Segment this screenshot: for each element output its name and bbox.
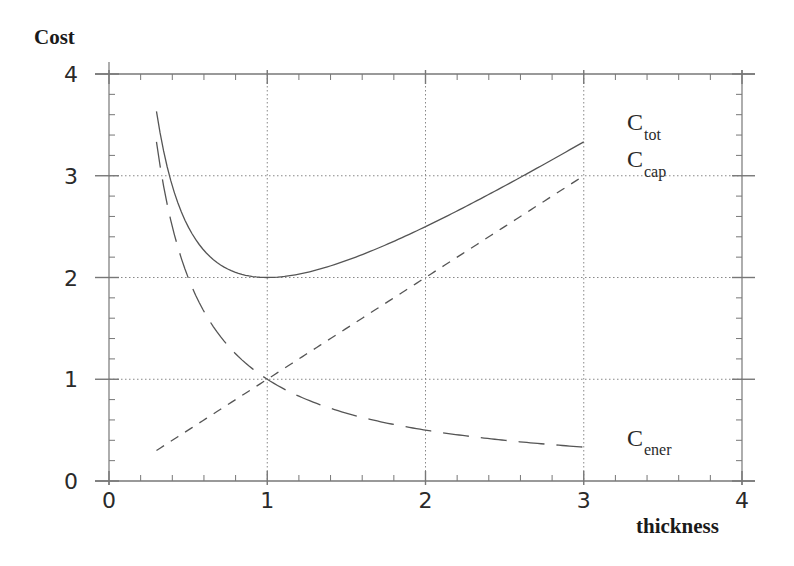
x-axis-title: thickness <box>636 514 719 538</box>
y-tick-label: 3 <box>64 164 78 189</box>
svg-text:C: C <box>627 146 643 172</box>
x-tick-label: 4 <box>735 488 749 513</box>
y-tick-label: 2 <box>64 266 78 291</box>
curve-c-cap <box>156 176 583 451</box>
y-tick-label: 0 <box>64 469 78 494</box>
y-tick-label: 4 <box>64 62 78 87</box>
y-tick-label: 1 <box>64 367 78 392</box>
series-label-ccap: C cap <box>627 146 666 181</box>
curve-c-tot <box>156 111 583 277</box>
svg-text:cap: cap <box>644 163 666 181</box>
x-tick-label: 3 <box>577 488 591 513</box>
y-axis-title: Cost <box>34 25 75 49</box>
x-tick-label: 1 <box>260 488 274 513</box>
svg-text:ener: ener <box>644 441 672 458</box>
curves <box>156 111 583 450</box>
y-tick-labels: 01234 <box>64 62 78 494</box>
svg-text:tot: tot <box>644 126 661 143</box>
series-label-ctot: C tot <box>627 109 661 143</box>
x-tick-label: 0 <box>102 488 116 513</box>
svg-text:C: C <box>627 425 643 451</box>
series-label-cener: C ener <box>627 425 672 458</box>
cost-vs-thickness-chart: 01234 01234 Cost thickness C tot C cap C… <box>0 0 794 566</box>
x-tick-label: 2 <box>419 488 433 513</box>
x-tick-labels: 01234 <box>102 488 749 513</box>
curve-c-ener <box>156 142 583 447</box>
svg-text:C: C <box>627 109 643 135</box>
